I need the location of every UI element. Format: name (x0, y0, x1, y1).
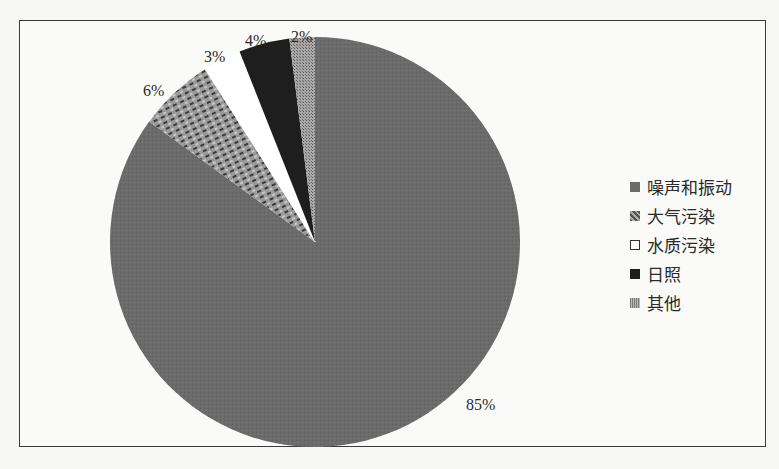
legend-swatch-noise-icon (630, 182, 640, 192)
slice-label-sunlight: 4% (245, 32, 266, 50)
legend-item-water: 水质污染 (630, 230, 732, 259)
legend-label: 日照 (647, 261, 681, 286)
legend-item-sunlight: 日照 (630, 259, 732, 288)
legend-swatch-other-icon (630, 298, 640, 308)
slice-label-other: 2% (291, 28, 312, 46)
legend-label: 其他 (647, 290, 681, 315)
chart-legend: 噪声和振动 大气污染 水质污染 日照 其他 (630, 172, 732, 317)
legend-item-noise: 噪声和振动 (630, 172, 732, 201)
legend-label: 水质污染 (647, 232, 715, 257)
legend-item-other: 其他 (630, 288, 732, 317)
pie-slices (110, 37, 520, 447)
legend-label: 噪声和振动 (647, 174, 732, 199)
slice-label-noise: 85% (466, 396, 495, 414)
legend-swatch-sunlight-icon (630, 269, 640, 279)
slice-label-air: 6% (143, 82, 164, 100)
legend-item-air: 大气污染 (630, 201, 732, 230)
legend-swatch-air-icon (630, 211, 640, 221)
legend-label: 大气污染 (647, 203, 715, 228)
legend-swatch-water-icon (630, 240, 640, 250)
slice-label-water: 3% (204, 48, 225, 66)
